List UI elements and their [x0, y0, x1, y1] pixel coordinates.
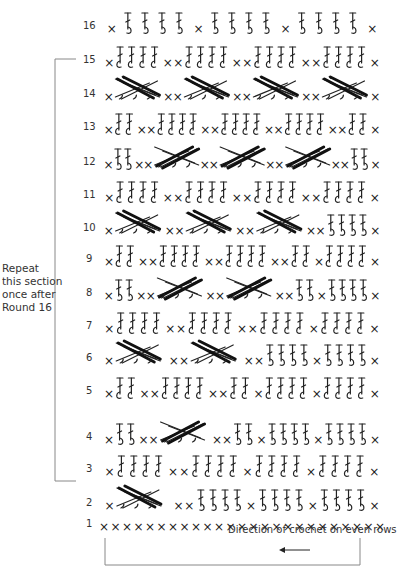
cross-hook [340, 95, 343, 99]
single-crochet-symbol: × [104, 433, 114, 447]
repeat-note-line: this section [2, 275, 62, 288]
cross-hook [193, 438, 196, 442]
single-crochet-symbol: × [146, 289, 156, 303]
single-crochet-symbol: × [311, 90, 321, 104]
direction-bracket [105, 538, 360, 565]
single-crochet-symbol: × [311, 191, 321, 205]
single-crochet-symbol: × [194, 22, 204, 36]
single-crochet-symbol: × [235, 224, 245, 238]
single-crochet-symbol: × [105, 465, 115, 479]
row-number: 9 [86, 253, 92, 264]
single-crochet-symbol: × [370, 289, 380, 303]
single-crochet-symbol: × [110, 520, 120, 534]
single-crochet-symbol: × [176, 322, 186, 336]
row-number: 3 [86, 463, 92, 474]
single-crochet-symbol: × [237, 322, 247, 336]
single-crochet-symbol: × [104, 90, 114, 104]
single-crochet-symbol: × [370, 322, 380, 336]
single-crochet-symbol: × [173, 56, 183, 70]
single-crochet-symbol: × [317, 289, 327, 303]
row-number: 11 [83, 189, 96, 200]
single-crochet-symbol: × [306, 465, 316, 479]
single-crochet-symbol: × [245, 224, 255, 238]
single-crochet-symbol: × [202, 520, 212, 534]
single-crochet-symbol: × [200, 123, 210, 137]
cross-hook [187, 163, 190, 167]
direction-arrow-icon [279, 547, 285, 553]
cross-hook [134, 229, 137, 233]
cross-hook [133, 95, 136, 99]
single-crochet-symbol: × [148, 255, 158, 269]
single-crochet-symbol: × [104, 322, 114, 336]
row-number: 2 [86, 497, 92, 508]
single-crochet-symbol: × [301, 56, 311, 70]
cross-hook [271, 95, 274, 99]
cross-hook [135, 504, 138, 508]
single-crochet-symbol: × [248, 322, 258, 336]
single-crochet-symbol: × [138, 433, 148, 447]
single-crochet-symbol: × [370, 191, 380, 205]
single-crochet-symbol: × [174, 224, 184, 238]
row-number: 10 [83, 222, 96, 233]
cross-hook [275, 229, 278, 233]
single-crochet-symbol: × [312, 387, 322, 401]
single-crochet-symbol: × [254, 354, 264, 368]
single-crochet-symbol: × [173, 90, 183, 104]
single-crochet-symbol: × [244, 354, 254, 368]
row-number: 12 [83, 156, 96, 167]
row-number: 14 [83, 88, 96, 99]
single-crochet-symbol: × [150, 387, 160, 401]
single-crochet-symbol: × [156, 520, 166, 534]
single-crochet-symbol: × [312, 354, 322, 368]
single-crochet-symbol: × [104, 289, 114, 303]
cross-hook [204, 229, 207, 233]
row-number: 4 [86, 431, 92, 442]
single-crochet-symbol: × [163, 56, 173, 70]
single-crochet-symbol: × [313, 433, 323, 447]
single-crochet-symbol: × [306, 224, 316, 238]
single-crochet-symbol: × [104, 354, 114, 368]
cross-hook [318, 163, 321, 167]
single-crochet-symbol: × [274, 158, 284, 172]
single-crochet-symbol: × [232, 56, 242, 70]
cross-hook [202, 95, 205, 99]
single-crochet-symbol: × [210, 123, 220, 137]
single-crochet-symbol: × [143, 158, 153, 172]
single-crochet-symbol: × [104, 255, 114, 269]
single-crochet-symbol: × [232, 191, 242, 205]
single-crochet-symbol: × [328, 123, 338, 137]
single-crochet-symbol: × [316, 224, 326, 238]
repeat-note-line: Round 16 [2, 301, 62, 314]
row-number: 16 [83, 20, 96, 31]
single-crochet-symbol: × [370, 90, 380, 104]
single-crochet-symbol: × [104, 123, 114, 137]
single-crochet-symbol: × [264, 123, 274, 137]
single-crochet-symbol: × [370, 56, 380, 70]
single-crochet-symbol: × [309, 322, 319, 336]
single-crochet-symbol: × [145, 520, 155, 534]
single-crochet-symbol: × [212, 433, 222, 447]
single-crochet-symbol: × [179, 354, 189, 368]
single-crochet-symbol: × [204, 255, 214, 269]
cross-hook [209, 359, 212, 363]
single-crochet-symbol: × [242, 90, 252, 104]
single-crochet-symbol: × [270, 255, 280, 269]
single-crochet-symbol: × [370, 255, 380, 269]
single-crochet-symbol: × [179, 520, 189, 534]
single-crochet-symbol: × [165, 224, 175, 238]
single-crochet-symbol: × [370, 354, 380, 368]
single-crochet-symbol: × [184, 499, 194, 513]
single-crochet-symbol: × [138, 255, 148, 269]
row-number: 15 [83, 54, 96, 65]
single-crochet-symbol: × [311, 56, 321, 70]
single-crochet-symbol: × [254, 387, 264, 401]
single-crochet-symbol: × [133, 520, 143, 534]
single-crochet-symbol: × [274, 123, 284, 137]
single-crochet-symbol: × [139, 387, 149, 401]
single-crochet-symbol: × [218, 387, 228, 401]
single-crochet-symbol: × [367, 22, 377, 36]
single-crochet-symbol: × [179, 465, 189, 479]
single-crochet-symbol: × [370, 433, 380, 447]
single-crochet-symbol: × [246, 499, 256, 513]
single-crochet-symbol: × [371, 158, 381, 172]
